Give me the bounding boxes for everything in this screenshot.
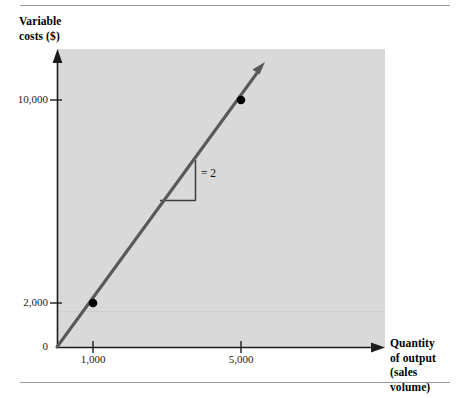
- axes-and-series-svg: [0, 0, 456, 398]
- y-axis-title: Variable costs ($): [19, 14, 109, 43]
- x-axis: [57, 343, 385, 353]
- slope-annotation-label: = 2: [201, 167, 216, 179]
- variable-cost-chart-figure: Variable costs ($) Quantity of output (s…: [0, 0, 456, 398]
- y-tick-label-10000: 10,000: [0, 93, 48, 105]
- x-axis-title-line1: Quantity: [390, 336, 456, 351]
- data-point-marker: [89, 299, 98, 308]
- y-axis-ticks: [50, 100, 62, 303]
- x-axis-title: Quantity of output (sales volume): [390, 336, 456, 394]
- x-tick-label-1000: 1,000: [68, 353, 118, 365]
- y-tick-label-0: 0: [0, 340, 48, 352]
- y-axis-title-line2: costs ($): [19, 29, 109, 44]
- data-point-marker: [237, 96, 246, 105]
- x-tick-label-5000: 5,000: [216, 353, 266, 365]
- x-axis-title-line3: (sales volume): [390, 365, 456, 394]
- y-tick-label-2000: 2,000: [0, 296, 48, 308]
- y-axis-title-line1: Variable: [19, 14, 109, 29]
- x-axis-title-line2: of output: [390, 351, 456, 366]
- data-point-markers: [89, 96, 246, 308]
- bottom-divider-rule: [20, 382, 450, 383]
- variable-cost-line: [57, 62, 265, 347]
